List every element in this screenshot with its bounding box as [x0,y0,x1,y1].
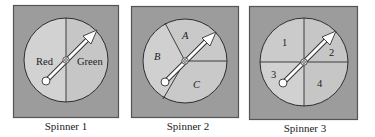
spinner-3-graphic: 1 2 3 4 [245,0,375,137]
spinner-3-label-2: 2 [329,47,334,58]
spinner-2-label-a: A [181,30,189,41]
spinner-3: 1 2 3 4 Spinner 3 [245,0,375,137]
spinner-1-label-green: Green [77,56,103,67]
spinner-3-label-1: 1 [282,37,287,48]
spinner-3-label-3: 3 [271,69,276,80]
spinner-2: A B C Spinner 2 [120,0,245,137]
spinner-2-label-c: C [193,79,201,90]
spinner-1: Red Green Spinner 1 [0,0,125,137]
spinner-2-label-b: B [154,51,161,62]
spinner-3-label-4: 4 [317,78,323,89]
spinner-1-caption: Spinner 1 [40,120,92,132]
spinner-3-caption: Spinner 3 [279,122,331,134]
spinner-1-graphic: Red Green [0,0,125,137]
spinner-2-graphic: A B C [120,0,245,137]
spinner-1-label-red: Red [36,56,54,67]
spinner-2-caption: Spinner 2 [162,120,214,132]
